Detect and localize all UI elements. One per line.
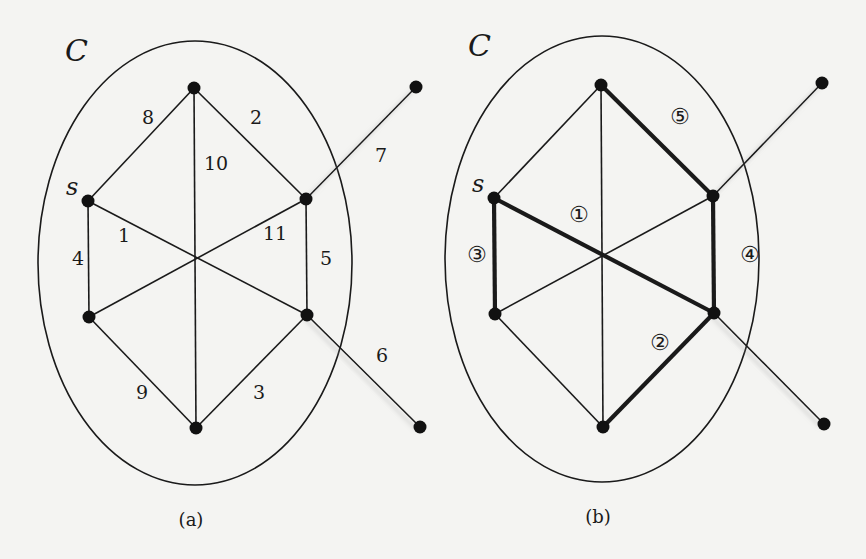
edge-weight-label: 4 bbox=[72, 247, 84, 269]
edge-ru-rl bbox=[306, 199, 307, 315]
vertex-ext_top bbox=[816, 77, 829, 90]
set-label-c: C bbox=[65, 33, 88, 68]
panel-a-spanning-graph: 1234567891011Cs(a) bbox=[38, 33, 427, 530]
vertex-bottom bbox=[597, 421, 610, 434]
vertex-ext_bottom bbox=[818, 418, 831, 431]
edge-weight-label: 9 bbox=[136, 381, 148, 403]
edge-top-ru bbox=[194, 88, 306, 199]
edge-weight-label: 8 bbox=[142, 106, 154, 128]
vertex-ru bbox=[707, 190, 720, 203]
vertex-s bbox=[82, 195, 95, 208]
source-vertex-label: s bbox=[66, 173, 78, 201]
vertex-ru bbox=[300, 193, 313, 206]
vertex-rl bbox=[708, 307, 721, 320]
vertex-ext_bottom bbox=[414, 421, 427, 434]
vertex-ll bbox=[489, 308, 502, 321]
edge-rl-ext_bottom bbox=[714, 313, 824, 424]
edge-order-label: ⑤ bbox=[670, 104, 690, 129]
edge-weight-label: 11 bbox=[263, 222, 287, 244]
edge-order-label: ③ bbox=[467, 242, 487, 267]
edge-ll-bottom bbox=[89, 317, 196, 428]
edge-s-top bbox=[88, 88, 194, 201]
vertex-bottom bbox=[190, 422, 203, 435]
panel-caption: (b) bbox=[585, 506, 611, 527]
edge-top-bottom bbox=[194, 88, 196, 428]
edge-weight-label: 7 bbox=[375, 144, 387, 166]
vertex-ext_top bbox=[410, 81, 423, 94]
vertex-ll bbox=[83, 311, 96, 324]
edge-order-label: ② bbox=[650, 330, 670, 355]
edge-weight-label: 6 bbox=[376, 344, 388, 366]
vertex-rl bbox=[301, 309, 314, 322]
set-label-c: C bbox=[468, 28, 491, 63]
edge-s-ll bbox=[88, 201, 89, 317]
edge-weight-label: 1 bbox=[118, 224, 130, 246]
edge-rl-bottom bbox=[196, 315, 307, 428]
vertex-top bbox=[595, 79, 608, 92]
edge-order-label: ④ bbox=[740, 242, 760, 267]
figure-canvas: 1234567891011Cs(a) ①②③④⑤Cs(b) bbox=[0, 0, 866, 559]
panel-b-selected-tree: ①②③④⑤Cs(b) bbox=[445, 28, 831, 527]
edge-s-rl bbox=[494, 198, 714, 313]
edge-order-label: ① bbox=[569, 202, 589, 227]
vertex-s bbox=[488, 192, 501, 205]
edge-ll-bottom bbox=[495, 314, 603, 427]
edge-s-top bbox=[494, 85, 601, 198]
edge-weight-label: 10 bbox=[204, 152, 228, 174]
edge-weight-label: 2 bbox=[250, 106, 262, 128]
edge-weight-label: 3 bbox=[253, 381, 265, 403]
edge-ru-ext_top bbox=[306, 87, 416, 199]
edge-ru-ext_top bbox=[713, 83, 822, 196]
edge-ll-ru bbox=[89, 199, 306, 317]
vertex-top bbox=[188, 82, 201, 95]
panel-caption: (a) bbox=[179, 509, 204, 530]
edge-weight-label: 5 bbox=[320, 247, 332, 269]
edge-top-ru bbox=[601, 85, 713, 196]
edge-s-ll bbox=[494, 198, 495, 314]
edge-rl-ext_bottom bbox=[307, 315, 420, 427]
edge-ru-rl bbox=[713, 196, 714, 313]
source-vertex-label: s bbox=[472, 170, 484, 198]
